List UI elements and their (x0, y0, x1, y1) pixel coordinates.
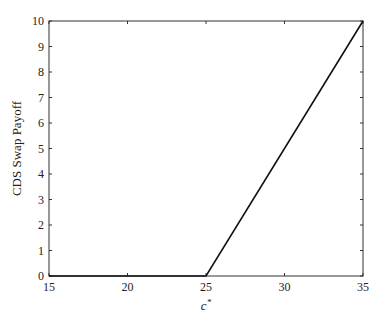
y-tick-label: 0 (38, 269, 44, 283)
plot-frame (49, 21, 363, 276)
x-axis-label: c* (201, 297, 212, 313)
payoff-chart: 1520253035 012345678910 c* CDS Swap Payo… (0, 0, 386, 321)
y-tick-label: 1 (38, 244, 44, 258)
x-tick-label: 35 (357, 280, 369, 294)
x-tick-label: 20 (122, 280, 134, 294)
x-tick-label: 15 (43, 280, 55, 294)
y-tick-label: 5 (38, 142, 44, 156)
x-tick-label: 25 (200, 280, 212, 294)
y-tick-label: 3 (38, 193, 44, 207)
y-tick-label: 7 (38, 91, 44, 105)
y-axis-label: CDS Swap Payoff (9, 100, 24, 196)
x-tick-labels: 1520253035 (43, 280, 369, 294)
y-tick-label: 2 (38, 218, 44, 232)
y-tick-label: 10 (32, 14, 44, 28)
x-tick-label: 30 (279, 280, 291, 294)
y-tick-labels: 012345678910 (32, 14, 44, 283)
axis-ticks (49, 21, 363, 276)
payoff-line (49, 21, 363, 276)
y-tick-label: 9 (38, 40, 44, 54)
y-tick-label: 8 (38, 65, 44, 79)
y-tick-label: 4 (38, 167, 44, 181)
y-tick-label: 6 (38, 116, 44, 130)
